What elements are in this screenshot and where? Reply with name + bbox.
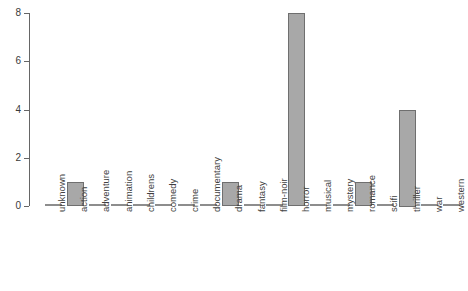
y-axis-tick-label: 4 [1,105,21,115]
y-axis-tick-label: 0 [1,201,21,211]
x-axis-label-fantasy: fantasy [257,181,267,212]
x-axis-label-musical: musical [323,180,333,212]
y-axis-tick-mark [24,61,29,62]
x-axis-label-western: western [456,179,466,212]
y-axis-tick-label: 8 [1,8,21,18]
y-axis-tick-mark [24,110,29,111]
x-axis-label-horror: horror [301,187,311,212]
x-axis-label-documentary: documentary [212,157,222,212]
x-axis-label-action: action [79,187,89,212]
y-axis-tick-mark [24,158,29,159]
bar-chart: 02468 unknownactionadventureanimationchi… [0,0,468,291]
x-axis-label-war: war [434,197,444,212]
x-axis-label-crime: crime [190,189,200,212]
y-axis-line [29,13,30,206]
y-axis-tick-mark [24,13,29,14]
y-axis-tick-label: 6 [1,56,21,66]
y-axis-tick-label: 2 [1,153,21,163]
x-axis-label-mystery: mystery [345,179,355,212]
x-axis-label-scifi: scifi [389,196,399,212]
x-axis-label-comedy: comedy [168,179,178,212]
x-axis-label-thriller: thriller [412,186,422,212]
bar-horror [288,13,305,206]
x-axis-label-drama: drama [234,185,244,212]
x-axis-baseline [29,206,463,207]
